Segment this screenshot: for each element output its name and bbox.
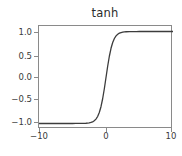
- ytick-label-4: −0.5: [0, 95, 32, 104]
- plot-svg: [39, 26, 173, 129]
- xtick-label-3: 10: [151, 132, 182, 141]
- ytick-label-2: 0.5: [0, 52, 32, 61]
- chart-title: tanh: [38, 6, 172, 20]
- chart-figure: tanh 1.0 0.5 0.0 −0.5 −1.0 −10 0 10: [0, 0, 182, 156]
- xtick-label-1: −10: [19, 132, 59, 141]
- ytick-label-5: −1.0: [0, 118, 32, 127]
- ytick-label-3: 0.0: [0, 73, 32, 82]
- xtick-label-2: 0: [86, 132, 126, 141]
- ytick-label-1: 1.0: [0, 28, 32, 37]
- series-line-tanh: [39, 32, 173, 124]
- plot-area: [38, 25, 172, 128]
